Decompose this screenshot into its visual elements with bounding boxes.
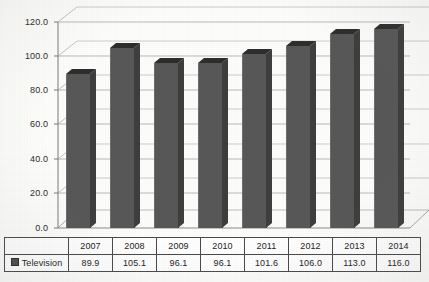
- bar-2012: [286, 0, 316, 228]
- table-header-2009: 2009: [157, 238, 201, 255]
- bar-2008: [110, 0, 140, 228]
- table-value-2014: 116.0: [377, 255, 421, 272]
- plot-area: 120.0 100.0 80.0 60.0 40.0 20.0 0.0: [0, 0, 429, 240]
- table-value-2013: 113.0: [333, 255, 377, 272]
- table-header-2012: 2012: [289, 238, 333, 255]
- bar-side-face: [222, 58, 228, 228]
- table-row-header: 2007 2008 2009 2010 2011 2012 2013 2014: [5, 238, 421, 255]
- table-value-2009: 96.1: [157, 255, 201, 272]
- bar-front-face: [374, 29, 399, 228]
- table-header-2014: 2014: [377, 238, 421, 255]
- table-row-television: Television 89.9 105.1 96.1 96.1 101.6 10…: [5, 255, 421, 272]
- bar-front-face: [330, 34, 355, 228]
- bars-layer: [0, 0, 429, 240]
- bar-front-face: [110, 48, 135, 228]
- bar-front-face: [286, 46, 311, 228]
- table-value-2012: 106.0: [289, 255, 333, 272]
- legend-label: Television: [22, 258, 63, 268]
- bar-front-face: [154, 63, 179, 228]
- table-value-2010: 96.1: [201, 255, 245, 272]
- bar-front-face: [198, 63, 223, 228]
- table-value-2011: 101.6: [245, 255, 289, 272]
- bar-front-face: [66, 74, 91, 228]
- table-value-2008: 105.1: [113, 255, 157, 272]
- legend-swatch-icon: [11, 258, 19, 266]
- table-header-2008: 2008: [113, 238, 157, 255]
- table-corner-cell: [5, 238, 69, 255]
- table-header-2013: 2013: [333, 238, 377, 255]
- bar-2011: [242, 0, 272, 228]
- table-value-2007: 89.9: [69, 255, 113, 272]
- bar-side-face: [178, 58, 184, 228]
- chart-container: 120.0 100.0 80.0 60.0 40.0 20.0 0.0 2007…: [0, 0, 429, 282]
- bar-side-face: [354, 29, 360, 228]
- bar-2014: [374, 0, 404, 228]
- data-table: 2007 2008 2009 2010 2011 2012 2013 2014 …: [4, 237, 421, 272]
- bar-2009: [154, 0, 184, 228]
- bar-2010: [198, 0, 228, 228]
- table-header-2007: 2007: [69, 238, 113, 255]
- bar-side-face: [90, 69, 96, 228]
- bar-2007: [66, 0, 96, 228]
- table-header-2010: 2010: [201, 238, 245, 255]
- bar-side-face: [134, 43, 140, 228]
- bar-side-face: [398, 24, 404, 228]
- legend-entry-television: Television: [5, 255, 69, 272]
- bar-side-face: [266, 49, 272, 228]
- bar-front-face: [242, 54, 267, 228]
- table-header-2011: 2011: [245, 238, 289, 255]
- bar-side-face: [310, 41, 316, 228]
- bar-2013: [330, 0, 360, 228]
